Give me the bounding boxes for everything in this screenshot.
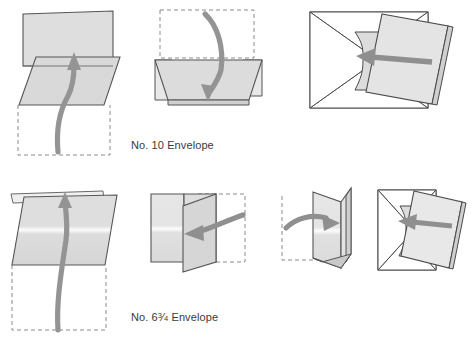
caption-prefix: No. 6 [131, 311, 158, 323]
no10-step-1 [18, 11, 120, 155]
no6-step-1 [11, 191, 117, 330]
no6-step-4 [378, 190, 466, 270]
caption-no-6-3-4-envelope: No. 63⁄4 Envelope [131, 311, 218, 323]
diagram-canvas [0, 0, 472, 340]
panel-front-left [313, 192, 341, 268]
no10-step-2 [155, 10, 262, 105]
no10-step-3 [310, 12, 453, 108]
fraction-three-quarters: 3⁄4 [158, 311, 169, 323]
caption-suffix: Envelope [171, 311, 218, 323]
panel-edge-sliver [346, 188, 351, 262]
no6-step-3 [282, 188, 351, 268]
fraction-denominator: 4 [164, 314, 168, 323]
no6-step-2 [151, 194, 245, 272]
caption-no-10-envelope: No. 10 Envelope [131, 139, 214, 151]
envelope-folding-diagram: No. 10 Envelope No. 63⁄4 Envelope [0, 0, 472, 340]
fraction-numerator: 3 [158, 311, 162, 320]
ghost-outline-bottom [18, 105, 110, 155]
panel-left-fixed [151, 194, 184, 262]
